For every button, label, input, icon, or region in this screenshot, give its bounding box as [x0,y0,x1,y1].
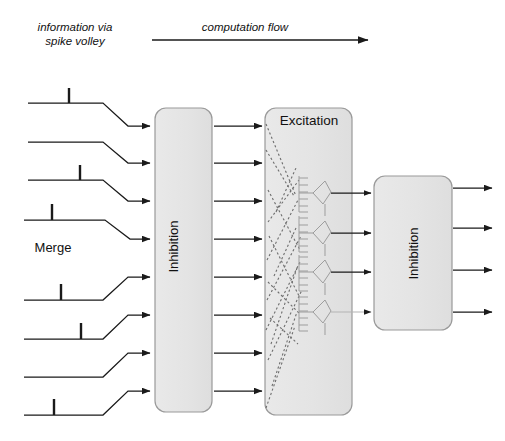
input-line-3 [28,165,150,201]
input-line-6 [24,315,150,339]
caption-computation-flow: computation flow [150,20,340,34]
block-inhibition-1[interactable] [155,108,212,412]
input-line-4 [24,204,150,239]
label-excitation: Excitation [269,113,349,128]
input-line-5 [24,277,150,300]
caption-information-via-spike-volley: information via spike volley [16,20,134,48]
output-arrows-group [453,188,492,312]
input-line-7 [24,353,150,377]
input-line-2 [28,142,150,163]
diagram-svg [0,0,505,441]
input-line-1 [28,88,150,126]
middle-arrows-group [214,126,262,391]
label-merge: Merge [10,240,96,255]
input-line-8 [24,391,150,415]
label-inhibition-1: Inhibition [166,207,181,287]
diagram-canvas: information via spike volley computation… [0,0,505,441]
label-inhibition-2: Inhibition [406,214,421,294]
